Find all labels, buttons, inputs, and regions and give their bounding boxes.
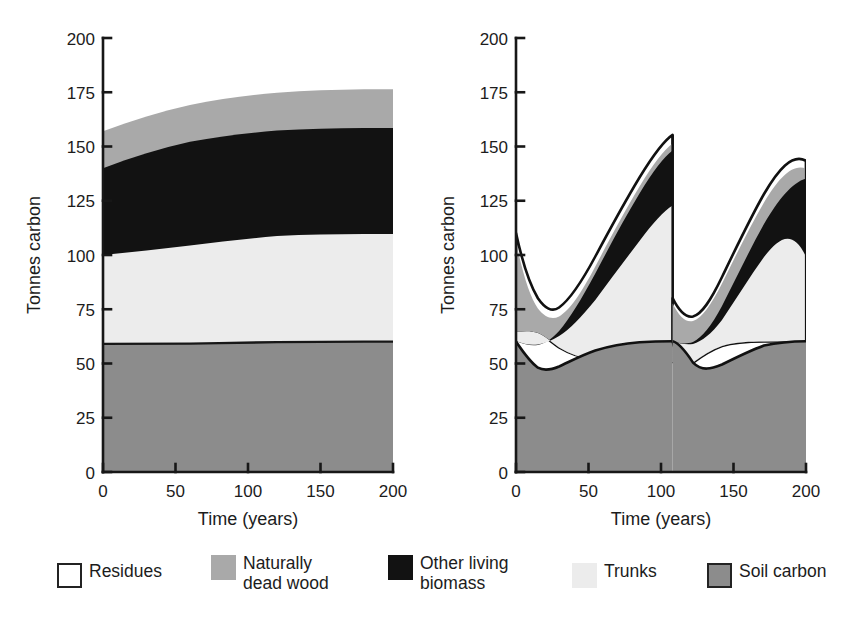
ytick-label: 125 [67,192,95,211]
area-soil-carbon-left [103,342,393,472]
ytick-label: 50 [76,355,95,374]
x-axis-title-unmanaged: Time (years) [198,509,298,529]
legend-swatch-trunks-icon [572,563,597,588]
ytick-label: 0 [86,464,95,483]
legend-swatch-soil-carbon-icon [707,563,732,588]
xtick-label: 100 [647,482,675,501]
ytick-label: 25 [489,409,508,428]
legend-label-trunks: Trunks [604,561,657,581]
xtick-label: 50 [579,482,598,501]
ytick-label: 150 [480,138,508,157]
y-axis-title-unmanaged: Tonnes carbon [24,196,44,314]
ytick-label: 100 [67,247,95,266]
ytick-label: 175 [480,84,508,103]
xtick-labels-unmanaged: 0 50 100 150 200 [98,482,407,501]
legend-label-other-living-biomass: Other living biomass [420,553,509,593]
legend: Residues Naturally dead wood Other livin… [0,548,866,638]
legend-swatch-naturally-dead-wood-icon [211,555,236,580]
area-soil-carbon-managed-c1 [516,341,673,472]
xtick-label: 100 [234,482,262,501]
ytick-label: 125 [480,192,508,211]
chart-svg-managed: 0 25 50 75 100 125 150 175 200 0 50 100 … [430,0,866,545]
xtick-label: 150 [719,482,747,501]
ytick-label: 200 [480,30,508,49]
ytick-label: 100 [480,247,508,266]
xtick-label: 150 [306,482,334,501]
xtick-label: 0 [511,482,520,501]
ytick-label: 50 [489,355,508,374]
x-axis-title-managed: Time (years) [611,509,711,529]
legend-label-residues: Residues [89,561,162,581]
ytick-label: 0 [499,464,508,483]
legend-swatch-other-living-biomass-icon [388,555,413,580]
legend-item-other-living-biomass[interactable]: Other living biomass [388,553,509,593]
y-axis-title-managed: Tonnes carbon [438,196,458,314]
ytick-labels-unmanaged: 0 25 50 75 100 125 150 175 200 [67,30,95,483]
ytick-label: 175 [67,84,95,103]
xtick-label: 50 [166,482,185,501]
ytick-labels-managed: 0 25 50 75 100 125 150 175 200 [480,30,508,483]
ytick-label: 75 [76,301,95,320]
ytick-label: 200 [67,30,95,49]
legend-item-soil-carbon[interactable]: Soil carbon [707,561,827,588]
xtick-label: 200 [792,482,820,501]
chart-panel-unmanaged: 0 25 50 75 100 125 150 175 200 0 50 100 … [0,0,440,545]
chart-panel-managed: 0 25 50 75 100 125 150 175 200 0 50 100 … [430,0,866,545]
xtick-labels-managed: 0 50 100 150 200 [511,482,820,501]
legend-label-naturally-dead-wood: Naturally dead wood [243,553,329,593]
plot-area-managed [516,135,806,472]
ytick-label: 25 [76,409,95,428]
legend-item-trunks[interactable]: Trunks [572,561,657,588]
legend-item-naturally-dead-wood[interactable]: Naturally dead wood [211,553,329,593]
xtick-label: 200 [379,482,407,501]
chart-svg-unmanaged: 0 25 50 75 100 125 150 175 200 0 50 100 … [0,0,440,545]
plot-area-unmanaged [103,89,393,472]
legend-swatch-residues-icon [57,563,82,588]
ytick-label: 75 [489,301,508,320]
ytick-label: 150 [67,138,95,157]
xtick-label: 0 [98,482,107,501]
figure-root: 0 25 50 75 100 125 150 175 200 0 50 100 … [0,0,866,638]
legend-item-residues[interactable]: Residues [57,561,162,588]
legend-label-soil-carbon: Soil carbon [739,561,827,581]
